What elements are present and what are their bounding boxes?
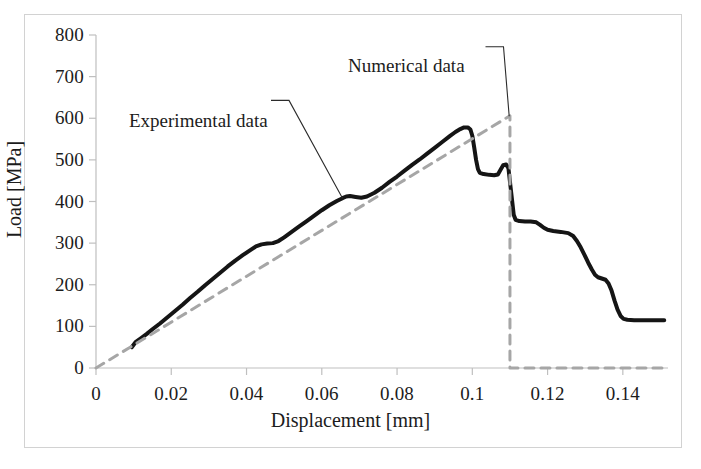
- x-axis-tick-label: 0.12: [531, 383, 565, 405]
- y-axis-tick-label: 0: [28, 357, 84, 379]
- series-line-numerical-data: [96, 116, 666, 368]
- y-axis-title: Load [MPa]: [3, 125, 26, 255]
- annotation-leader-line: [271, 100, 343, 198]
- y-axis-tick-label: 500: [28, 149, 84, 171]
- y-axis-tick-label: 700: [28, 66, 84, 88]
- x-axis-tick-label: 0.08: [380, 383, 414, 405]
- x-axis-tick-label: 0: [91, 383, 101, 405]
- series-line-experimental-data: [132, 127, 664, 347]
- annotation-leader-line: [486, 47, 510, 117]
- annotation-numerical-data: Numerical data: [348, 55, 465, 77]
- series-layer: [96, 116, 666, 368]
- x-axis-tick-label: 0.1: [460, 383, 484, 405]
- y-axis-tick-label: 200: [28, 274, 84, 296]
- y-axis-tick-label: 600: [28, 107, 84, 129]
- x-axis-tick-label: 0.04: [229, 383, 263, 405]
- x-axis-tick-label: 0.14: [606, 383, 640, 405]
- y-axis-tick-label: 400: [28, 191, 84, 213]
- chart-figure: Load [MPa] Displacement [mm] 01002003004…: [0, 0, 701, 469]
- annotation-experimental-data: Experimental data: [129, 110, 268, 132]
- y-axis-tick-label: 300: [28, 232, 84, 254]
- x-axis-tick-label: 0.02: [154, 383, 188, 405]
- y-axis-tick-label: 800: [28, 24, 84, 46]
- axes-layer: [89, 35, 668, 375]
- x-axis-tick-label: 0.06: [305, 383, 339, 405]
- x-axis-title: Displacement [mm]: [0, 409, 701, 432]
- y-axis-tick-label: 100: [28, 315, 84, 337]
